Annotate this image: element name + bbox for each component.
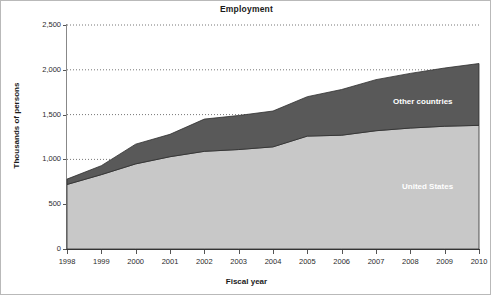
- x-tick-mark: [307, 250, 308, 254]
- x-axis-ticks: 1998199920002001200220032004200520062007…: [1, 251, 491, 271]
- x-tick-mark: [101, 250, 102, 254]
- stacked-area-svg: [67, 25, 479, 249]
- x-tick-mark: [479, 250, 480, 254]
- page-title: Employment: [1, 4, 491, 14]
- area-series-group: [67, 64, 479, 249]
- y-tick-label: 2,500: [5, 21, 61, 29]
- x-tick-mark: [342, 250, 343, 254]
- series-label-united-states: United States: [402, 182, 453, 191]
- x-tick-mark: [273, 250, 274, 254]
- chart-figure: Employment 05001,0001,5002,0002,500 Thou…: [0, 0, 491, 295]
- x-axis-title: Fiscal year: [1, 277, 491, 286]
- x-tick-label: 2010: [459, 257, 491, 266]
- series-label-other-countries: Other countries: [393, 97, 453, 106]
- x-tick-mark: [136, 250, 137, 254]
- x-tick-mark: [239, 250, 240, 254]
- x-tick-mark: [376, 250, 377, 254]
- x-tick-mark: [204, 250, 205, 254]
- x-tick-mark: [170, 250, 171, 254]
- x-tick-mark: [410, 250, 411, 254]
- x-tick-mark: [445, 250, 446, 254]
- x-tick-mark: [67, 250, 68, 254]
- y-axis-title: Thousands of persons: [12, 41, 21, 211]
- plot-area: [67, 25, 479, 249]
